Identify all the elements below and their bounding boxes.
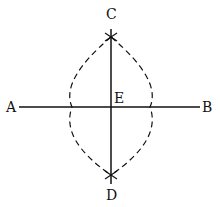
label-b: B — [202, 99, 212, 115]
bisector-diagram: A B C D E — [0, 0, 220, 207]
label-a: A — [5, 99, 17, 115]
label-e: E — [114, 90, 124, 106]
label-c: C — [106, 6, 117, 22]
label-d: D — [106, 187, 117, 203]
left-dashed-arc — [70, 37, 111, 175]
right-dashed-arc — [111, 37, 152, 175]
